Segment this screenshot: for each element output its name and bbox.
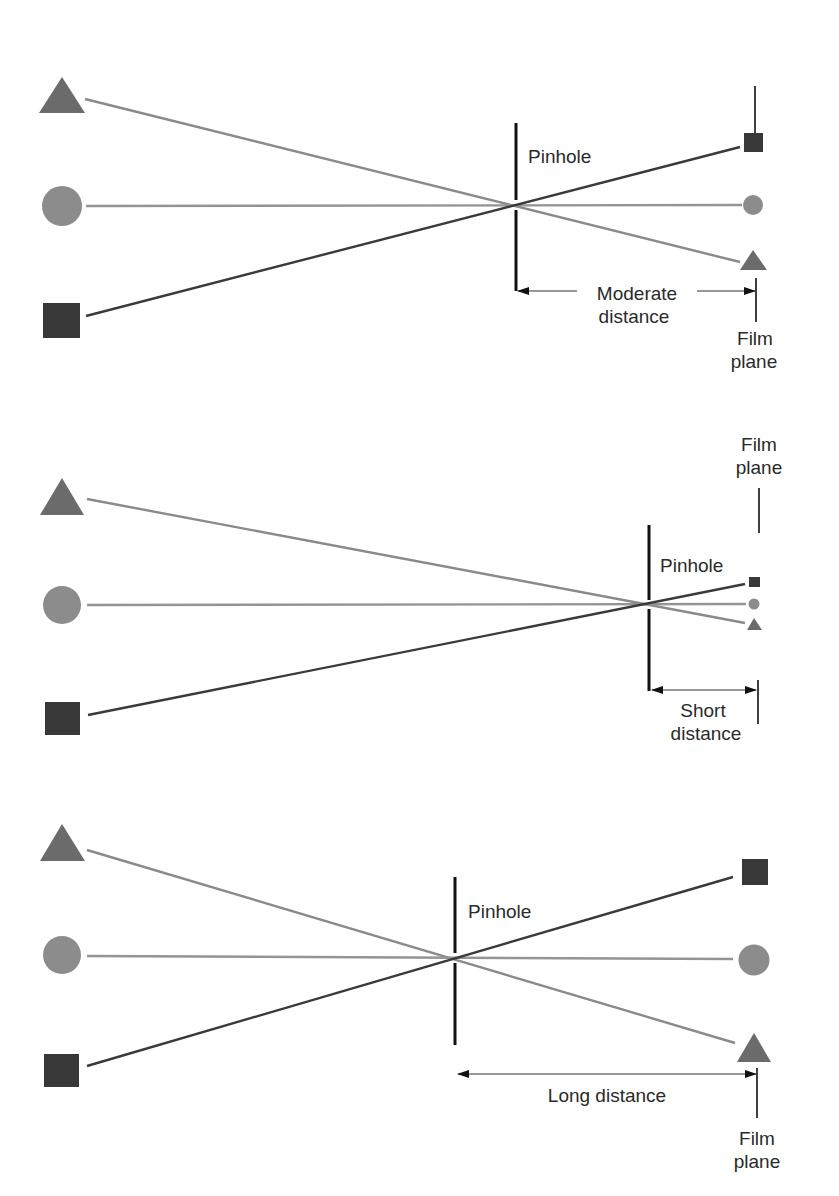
- image-circle: [743, 195, 763, 215]
- pinhole-label: Pinhole: [660, 555, 723, 576]
- film-plane-label: Film: [737, 328, 773, 349]
- object-square: [43, 303, 80, 338]
- ray-triangle: [85, 99, 740, 262]
- object-triangle: [39, 77, 85, 113]
- image-triangle: [740, 250, 767, 270]
- pinhole-label: Pinhole: [528, 146, 591, 167]
- distance-label: Moderate: [597, 283, 677, 304]
- pinhole-diagram: Pinhole Moderate distance Film plane Pin…: [0, 0, 839, 1196]
- image-square: [744, 133, 763, 152]
- film-plane-label: plane: [736, 457, 783, 478]
- image-circle: [739, 945, 770, 976]
- image-square: [749, 577, 760, 587]
- panel-long-distance: Pinhole Long distance Film plane: [40, 824, 780, 1172]
- ray-circle: [86, 205, 742, 206]
- image-triangle: [747, 618, 762, 630]
- distance-label: Long distance: [548, 1085, 666, 1106]
- pinhole-label: Pinhole: [468, 901, 531, 922]
- image-circle: [749, 599, 760, 610]
- ray-triangle: [87, 850, 735, 1043]
- panel-short-distance: Pinhole Short distance Film plane: [40, 434, 782, 744]
- object-triangle: [40, 824, 85, 861]
- film-plane-label: Film: [739, 1128, 775, 1149]
- distance-label: Short: [680, 700, 726, 721]
- distance-label: distance: [671, 723, 742, 744]
- ray-circle: [87, 956, 733, 959]
- film-plane-label: plane: [734, 1151, 781, 1172]
- object-circle: [43, 936, 81, 974]
- image-square: [742, 859, 768, 885]
- panel-moderate-distance: Pinhole Moderate distance Film plane: [39, 77, 777, 372]
- film-plane-label: Film: [741, 434, 777, 455]
- distance-label: distance: [599, 306, 670, 327]
- object-triangle: [40, 478, 84, 515]
- object-square: [44, 1054, 79, 1087]
- film-plane-label: plane: [731, 351, 778, 372]
- object-circle: [43, 586, 81, 624]
- object-square: [45, 702, 80, 735]
- object-circle: [42, 186, 82, 226]
- image-triangle: [737, 1033, 771, 1062]
- ray-square: [87, 877, 733, 1066]
